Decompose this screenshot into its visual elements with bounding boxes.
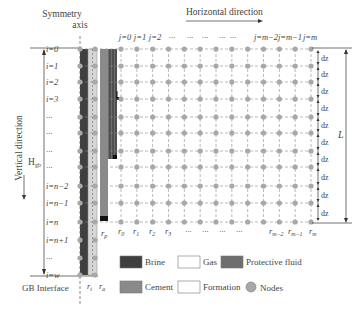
node <box>245 46 250 51</box>
radial-node-label-sub: m−2 <box>272 231 283 237</box>
node <box>229 148 234 153</box>
arrow-up-icon <box>317 204 320 207</box>
node <box>308 164 313 169</box>
node <box>277 164 282 169</box>
node <box>92 114 97 119</box>
node <box>245 200 250 205</box>
node <box>134 46 139 51</box>
cement-shoe <box>100 216 108 221</box>
arrow-down-icon <box>317 113 320 116</box>
node <box>229 200 234 205</box>
arrow-down-icon <box>317 147 320 150</box>
legend-label: Gas <box>203 257 217 267</box>
node <box>92 272 97 277</box>
node <box>182 183 187 188</box>
node <box>92 255 97 260</box>
node <box>308 219 313 224</box>
column-index-label: j=2 <box>148 32 162 42</box>
node <box>308 130 313 135</box>
horizontal-direction-label: Horizontal direction <box>186 7 263 17</box>
node <box>213 96 218 101</box>
node <box>293 114 298 119</box>
node <box>77 164 82 169</box>
node <box>229 164 234 169</box>
node <box>92 130 97 135</box>
node <box>277 200 282 205</box>
node <box>118 183 123 188</box>
legend-swatch <box>120 256 142 268</box>
node <box>166 148 171 153</box>
node <box>277 219 282 224</box>
radial-node-label: ··· <box>219 226 225 236</box>
node <box>150 164 155 169</box>
row-index-label: i=n+1 <box>46 235 68 245</box>
arrow-up-icon <box>344 49 348 54</box>
legend-swatch <box>178 256 200 268</box>
node <box>245 130 250 135</box>
node <box>293 183 298 188</box>
node <box>166 79 171 84</box>
row-index-label: i=w <box>46 270 60 280</box>
dz-label: dz <box>321 173 329 182</box>
node <box>134 63 139 68</box>
row-index-label: i=1 <box>46 61 58 71</box>
row-index-label: i=n−1 <box>46 198 68 208</box>
arrow-up-icon <box>317 50 320 53</box>
symmetry-axis-label: axis <box>72 20 88 30</box>
tube-radius-label-sub: t <box>90 286 92 292</box>
node <box>293 96 298 101</box>
node <box>198 183 203 188</box>
node <box>245 219 250 224</box>
arrow-down-icon <box>344 218 348 223</box>
node <box>261 46 266 51</box>
row-index-label: i=3 <box>46 94 58 104</box>
node <box>118 63 123 68</box>
legend-swatch <box>120 281 142 293</box>
radial-node-label: ··· <box>185 226 191 236</box>
arrow-up-icon <box>317 134 320 137</box>
arrow-up-icon <box>317 100 320 103</box>
radial-node-label-sub: 0 <box>121 231 124 237</box>
column-index-label: j=m <box>302 32 317 42</box>
radial-node-label: rm−2 <box>269 226 284 237</box>
radial-node-label: rm <box>309 226 317 237</box>
dz-label: dz <box>321 155 329 164</box>
radial-node-label: r1 <box>133 226 139 237</box>
node <box>118 130 123 135</box>
node <box>77 114 82 119</box>
node <box>92 46 97 51</box>
node <box>134 148 139 153</box>
node <box>77 272 82 277</box>
node <box>150 148 155 153</box>
node <box>229 79 234 84</box>
arrow-down-icon <box>317 62 320 65</box>
row-index-label: ··· <box>46 162 52 172</box>
node <box>213 200 218 205</box>
radial-node-label-sub: m−1 <box>291 231 302 237</box>
node <box>229 46 234 51</box>
radial-node-label: rm−1 <box>288 226 303 237</box>
symmetry-axis-label: Symmetry <box>42 9 82 19</box>
node <box>245 148 250 153</box>
node <box>166 130 171 135</box>
node <box>277 79 282 84</box>
row-index-label: i=0 <box>46 44 59 54</box>
node <box>293 63 298 68</box>
dz-label: dz <box>321 191 329 200</box>
radial-node-label: r3 <box>165 226 171 237</box>
radial-node-label-sub: 2 <box>152 231 155 237</box>
node <box>229 219 234 224</box>
row-index-label: i=n <box>46 217 58 227</box>
legend-item-gas: Gas <box>178 256 217 268</box>
vertical-direction-group: Vertical direction <box>14 115 24 181</box>
node <box>198 46 203 51</box>
node <box>166 63 171 68</box>
column-index-label: j=0 <box>118 32 132 42</box>
node <box>182 114 187 119</box>
node <box>308 79 313 84</box>
legend-item-brine: Brine <box>120 256 165 268</box>
dz-label: dz <box>321 87 329 96</box>
tube-radius-label: rt <box>87 281 92 292</box>
column-index-label: ··· <box>169 32 175 42</box>
node <box>213 219 218 224</box>
